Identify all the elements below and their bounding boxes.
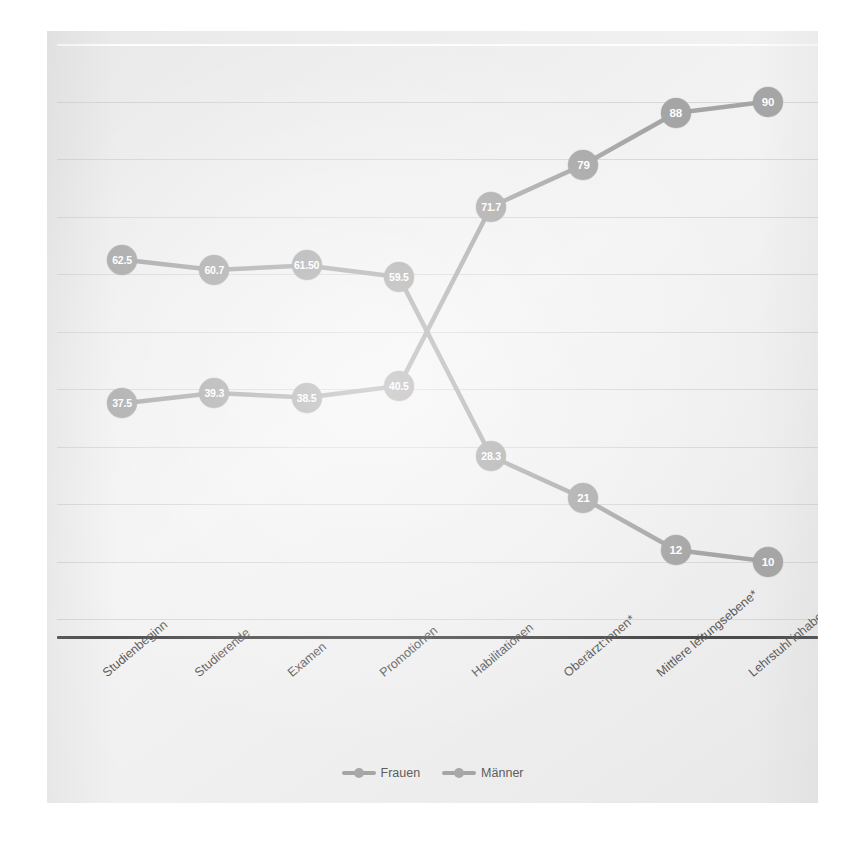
legend-item-frauen[interactable]: Frauen [342, 766, 421, 780]
data-point-frauen-2: 61.50 [292, 250, 322, 280]
series-line-frauen [122, 260, 768, 562]
legend-label: Frauen [381, 766, 421, 780]
data-point-frauen-7: 10 [753, 547, 783, 577]
x-axis-label-2: Examen [285, 640, 329, 680]
data-point-männer-6: 88 [661, 98, 691, 128]
chart-legend: FrauenMänner [47, 766, 818, 780]
x-axis-label-1: Studierende [192, 626, 253, 680]
data-point-männer-5: 79 [568, 150, 598, 180]
legend-marker-icon [342, 771, 376, 775]
plot-area: 62.560.761.5059.528.321121037.539.338.54… [57, 31, 818, 631]
x-axis-label-3: Promotionen [377, 623, 440, 679]
data-point-frauen-3: 59.5 [384, 262, 414, 292]
chart-panel: 62.560.761.5059.528.321121037.539.338.54… [47, 31, 818, 803]
series-lines [57, 31, 818, 631]
data-point-männer-7: 90 [753, 87, 783, 117]
series-line-männer [122, 102, 768, 404]
data-point-frauen-6: 12 [661, 535, 691, 565]
legend-marker-icon [442, 771, 476, 775]
legend-label: Männer [481, 766, 523, 780]
data-point-männer-4: 71.7 [476, 192, 506, 222]
data-point-männer-3: 40.5 [384, 371, 414, 401]
data-point-frauen-0: 62.5 [107, 245, 137, 275]
legend-item-männer[interactable]: Männer [442, 766, 523, 780]
data-point-männer-2: 38.5 [292, 383, 322, 413]
